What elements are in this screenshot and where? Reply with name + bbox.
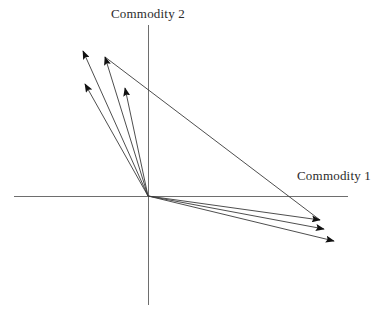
axes-group [14,25,348,305]
upper-left-vector-4 [125,88,148,196]
upper-left-vector-1 [83,51,148,196]
diagram-canvas [0,0,381,313]
axis-label-commodity2: Commodity 2 [111,6,185,22]
vectors-group [83,51,334,241]
upper-left-vector-2 [105,57,148,196]
axis-label-commodity1: Commodity 1 [297,168,371,184]
lower-right-vector-2 [148,196,324,229]
commodity-vector-figure: Commodity 2 Commodity 1 [0,0,381,313]
upper-left-vector-3 [85,84,148,196]
